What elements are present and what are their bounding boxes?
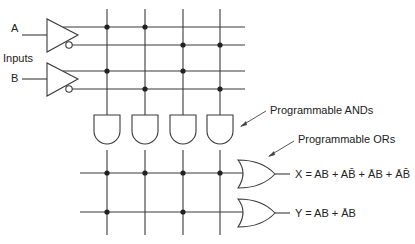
- annotation-ands: Programmable ANDs: [270, 104, 374, 116]
- buffer-b: [47, 63, 78, 96]
- and-gate-1: [94, 115, 120, 144]
- fuse-dot: [104, 68, 109, 73]
- fuse-dot: [104, 209, 109, 214]
- and-gate-4: [207, 115, 233, 144]
- fuse-dot: [180, 42, 185, 47]
- or-gate-y: [238, 199, 290, 227]
- input-b-label: B: [11, 72, 18, 84]
- equation-y: Y = AB + ĀB: [295, 207, 356, 219]
- annotation-ors: Programmable ORs: [298, 133, 396, 145]
- inputs-label: Inputs: [3, 52, 33, 64]
- fuse-dot: [142, 86, 147, 91]
- fuse-dot: [217, 42, 222, 47]
- fuse-dot: [180, 68, 185, 73]
- fuse-dot: [180, 170, 185, 175]
- and-gate-3: [170, 115, 196, 144]
- fuse-dot: [180, 209, 185, 214]
- fuse-dot: [142, 24, 147, 29]
- input-a-label: A: [11, 22, 19, 34]
- fuse-dot: [104, 170, 109, 175]
- and-gate-2: [132, 115, 158, 144]
- arrow-head-icon: [268, 151, 275, 157]
- arrow-head-icon: [240, 121, 247, 127]
- pla-diagram: A Inputs B X = AB + AB̄ + ĀB + ĀB̄ Y = A…: [0, 0, 415, 244]
- inverter-bubble-icon: [66, 86, 72, 92]
- fuse-dot: [217, 170, 222, 175]
- or-gate-x: [238, 160, 290, 188]
- equation-x: X = AB + AB̄ + ĀB + ĀB̄: [295, 168, 410, 180]
- fuse-dot: [104, 24, 109, 29]
- fuse-dot: [217, 86, 222, 91]
- fuse-dot: [142, 170, 147, 175]
- buffer-a: [47, 19, 78, 52]
- inverter-bubble-icon: [66, 42, 72, 48]
